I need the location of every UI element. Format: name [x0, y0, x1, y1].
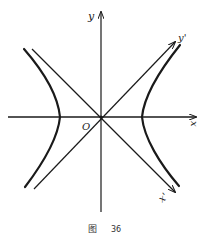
y-prime-axis-label: y': [177, 32, 186, 43]
origin-label: O: [82, 121, 90, 132]
x-prime-axis: [32, 49, 175, 192]
y-axis-label: y: [87, 10, 95, 23]
x-prime-axis-label: x': [156, 191, 169, 205]
x-axis-label: x: [189, 121, 200, 127]
figure-caption-number: 36: [111, 225, 121, 234]
origin-point: [99, 115, 102, 118]
hyperbola-diagram: y y' O x x' 图 36: [0, 0, 203, 246]
figure-caption-prefix: 图: [88, 224, 97, 234]
hyperbola-left-branch: [24, 49, 60, 187]
y-prime-axis: [34, 42, 175, 189]
